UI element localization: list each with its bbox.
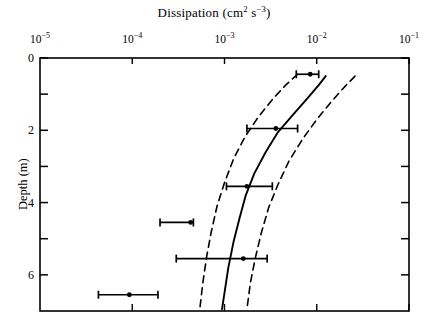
data-point-group (160, 218, 193, 226)
data-point-marker (245, 184, 250, 189)
y-tick-label: 6 (20, 267, 34, 282)
y-tick-label: 0 (20, 51, 34, 66)
plot-canvas (0, 0, 428, 336)
data-point-marker (308, 72, 313, 77)
y-tick-label: 2 (20, 123, 34, 138)
x-tick-mantissa: 10 (30, 33, 42, 45)
data-point-marker (241, 256, 246, 261)
data-point-marker (127, 292, 132, 297)
data-point-group (296, 70, 318, 78)
x-tick-label: 10−4 (122, 31, 142, 45)
y-tick-label: 4 (20, 195, 34, 210)
x-tick-label: 10−2 (307, 31, 327, 45)
x-tick-mantissa: 10 (399, 33, 411, 45)
confidence-bound-curve (200, 74, 298, 309)
x-tick-label: 10−5 (30, 31, 50, 45)
x-tick-exponent: −5 (41, 31, 50, 40)
x-tick-mantissa: 10 (214, 33, 226, 45)
x-tick-label: 10−1 (399, 31, 419, 45)
data-point-group (98, 291, 158, 299)
x-tick-mantissa: 10 (307, 33, 319, 45)
median-curve (222, 76, 326, 309)
data-point-group (176, 255, 267, 263)
x-tick-mantissa: 10 (122, 33, 134, 45)
x-tick-exponent: −3 (226, 31, 235, 40)
data-point-marker (273, 126, 278, 131)
x-tick-exponent: −2 (318, 31, 327, 40)
x-tick-exponent: −1 (410, 31, 419, 40)
x-tick-exponent: −4 (134, 31, 143, 40)
data-point-marker (188, 220, 193, 225)
x-tick-label: 10−3 (214, 31, 234, 45)
data-point-group (247, 124, 298, 132)
dissipation-depth-figure: Dissipation (cm2 s−3) Depth (m) 10−510−4… (0, 0, 428, 336)
